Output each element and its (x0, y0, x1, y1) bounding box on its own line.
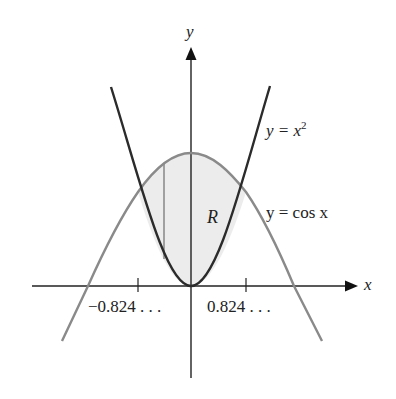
parabola-label-exponent: 2 (301, 119, 307, 131)
parabola-label-text: y = x (266, 121, 301, 140)
y-axis-label: y (186, 23, 194, 40)
diagram-canvas: y x y = x2 y = cos x R −0.824 . . . 0.82… (0, 0, 396, 399)
x-axis-label: x (364, 276, 372, 293)
x-axis-arrow-icon (345, 281, 358, 292)
parabola-label: y = x2 (266, 120, 307, 139)
cosine-label: y = cos x (266, 204, 328, 221)
region-label: R (207, 208, 218, 226)
graph-svg (0, 0, 396, 399)
tick-label-positive: 0.824 . . . (207, 298, 271, 315)
y-axis-arrow-icon (186, 47, 197, 60)
tick-label-negative: −0.824 . . . (88, 298, 161, 315)
